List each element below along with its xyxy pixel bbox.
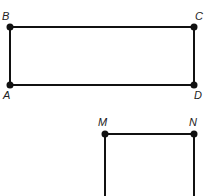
point-a xyxy=(7,82,14,89)
label-b: B xyxy=(2,10,9,22)
point-b xyxy=(7,24,14,31)
rectangle-abcd: B C A D xyxy=(2,10,203,101)
label-m: M xyxy=(98,116,108,128)
point-n xyxy=(191,131,198,138)
point-d xyxy=(191,82,198,89)
geometry-diagram: B C A D M N xyxy=(0,0,205,196)
point-m xyxy=(102,131,109,138)
label-d: D xyxy=(194,89,202,101)
label-c: C xyxy=(195,10,203,22)
figure-mn: M N xyxy=(98,116,198,196)
label-a: A xyxy=(2,89,10,101)
label-n: N xyxy=(189,116,197,128)
point-c xyxy=(191,24,198,31)
